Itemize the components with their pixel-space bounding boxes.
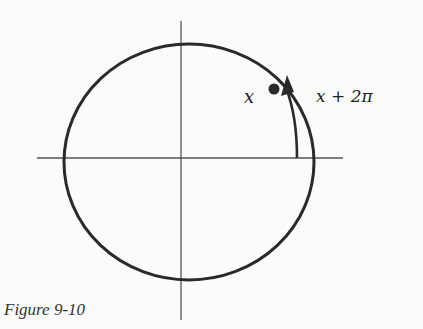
circle [64, 44, 314, 280]
circle-diagram [0, 0, 423, 329]
point-label: x [244, 86, 254, 107]
figure-caption: Figure 9-10 [4, 300, 85, 320]
wrapped-label: x + 2π [316, 86, 373, 106]
point-x [269, 84, 280, 95]
